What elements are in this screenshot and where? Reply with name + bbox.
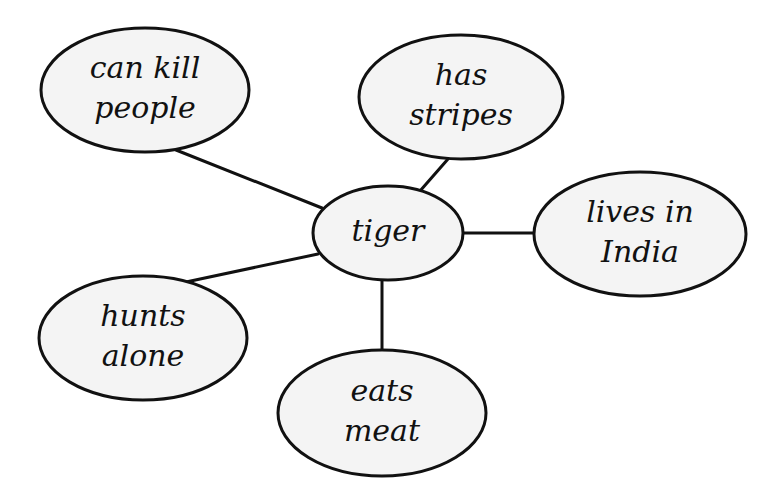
node-label-hunts-alone-line-2: alone (102, 338, 185, 373)
node-label-hunts-alone-line-1: hunts (100, 298, 185, 333)
node-has-stripes: hasstripes (359, 35, 563, 159)
node-label-lives-in-india-line-1: lives in (586, 194, 694, 229)
node-label-has-stripes-line-2: stripes (409, 97, 513, 132)
node-label-tiger-line-1: tiger (352, 213, 427, 248)
edge-tiger-to-hunts-alone (186, 254, 318, 282)
node-tiger: tiger (313, 186, 463, 280)
node-eats-meat: eatsmeat (278, 350, 486, 476)
node-hunts-alone: huntsalone (39, 276, 247, 400)
node-label-eats-meat-line-2: meat (344, 413, 421, 448)
nodes: tigercan killpeoplehasstripeslives inInd… (39, 28, 746, 476)
node-can-kill-people: can killpeople (41, 28, 249, 152)
concept-web-diagram: tigercan killpeoplehasstripeslives inInd… (0, 0, 780, 501)
edge-tiger-to-has-stripes (420, 159, 448, 191)
node-label-can-kill-people-line-1: can kill (90, 50, 201, 85)
node-label-lives-in-india-line-2: India (600, 234, 679, 269)
node-label-has-stripes-line-1: has (435, 57, 488, 92)
node-lives-in-india: lives inIndia (534, 172, 746, 296)
node-label-eats-meat-line-1: eats (350, 373, 413, 408)
edge-tiger-to-can-kill-people (176, 150, 322, 208)
node-label-can-kill-people-line-2: people (94, 90, 196, 125)
